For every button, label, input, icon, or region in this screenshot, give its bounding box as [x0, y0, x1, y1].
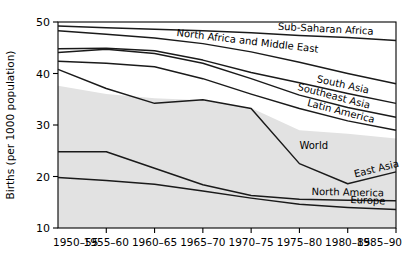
births-rate-line-chart: 1020304050 1950–551955–601960–651965–701… [0, 0, 415, 260]
y-tick-label: 40 [36, 68, 50, 81]
series-label-world: World [299, 140, 328, 151]
x-tick-label: 1965–70 [180, 236, 225, 248]
y-tick-label: 30 [36, 119, 50, 132]
x-tick-label: 1955–60 [84, 236, 129, 248]
series-label-europe: Europe [350, 194, 386, 206]
y-tick-label: 10 [36, 222, 50, 235]
x-tick-label: 1960–65 [132, 236, 177, 248]
y-tick-label: 50 [36, 16, 50, 29]
y-tick-label: 20 [36, 171, 50, 184]
x-tick-label: 1985–90 [357, 236, 402, 248]
x-tick-label: 1970–75 [228, 236, 273, 248]
chart-canvas: 1020304050 1950–551955–601960–651965–701… [0, 0, 415, 260]
y-axis-title: Births (per 1000 population) [4, 51, 16, 200]
x-tick-label: 1975–80 [277, 236, 322, 248]
